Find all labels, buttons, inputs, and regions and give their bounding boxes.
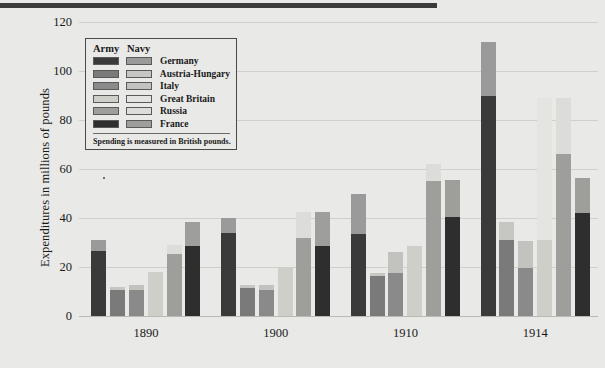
y-axis-tick-label: 60 — [60, 162, 73, 177]
y-axis-tick-label: 100 — [53, 64, 72, 79]
bar-1910-italy — [388, 252, 403, 316]
bar-1900-austria-hungary — [240, 285, 255, 316]
legend-swatch-navy-icon — [126, 57, 152, 65]
y-axis-title: Expenditures in millions of pounds — [38, 58, 53, 298]
bar-segment-navy — [556, 98, 571, 154]
bar-1910-france — [445, 180, 460, 316]
bar-segment-army — [575, 213, 590, 316]
gridline — [79, 218, 598, 219]
bar-segment-army — [370, 276, 385, 316]
gridline — [79, 22, 598, 23]
legend: Army Navy GermanyAustria-HungaryItalyGre… — [85, 38, 237, 150]
bar-segment-army — [296, 238, 311, 316]
y-axis-tick-label: 0 — [66, 309, 72, 324]
x-axis-group-label: 1910 — [393, 326, 418, 341]
bar-1914-germany — [481, 42, 496, 316]
bar-segment-navy — [388, 252, 403, 273]
legend-item-germany: Germany — [93, 55, 230, 68]
bar-segment-navy — [518, 241, 533, 268]
legend-header-army: Army — [93, 43, 127, 54]
bar-1890-austria-hungary — [110, 287, 125, 316]
bar-segment-army — [221, 233, 236, 316]
bar-1900-italy — [259, 285, 274, 316]
legend-swatch-army-icon — [93, 95, 119, 103]
bar-1910-germany — [351, 194, 366, 317]
bar-segment-navy — [481, 42, 496, 96]
bar-segment-navy — [537, 98, 552, 240]
bar-segment-army — [110, 290, 125, 316]
bar-1914-france — [575, 178, 590, 316]
bar-segment-army — [388, 273, 403, 316]
bar-segment-army — [278, 267, 293, 316]
bar-segment-navy — [426, 164, 441, 181]
bar-segment-army — [240, 288, 255, 316]
bar-segment-army — [537, 240, 552, 316]
bar-segment-navy — [499, 222, 514, 240]
x-axis-group-label: 1890 — [133, 326, 158, 341]
y-axis-tick-label: 40 — [60, 211, 73, 226]
bar-1910-russia — [426, 164, 441, 316]
bar-segment-navy — [185, 222, 200, 247]
legend-swatch-army-icon — [93, 82, 119, 90]
legend-header: Army Navy — [93, 43, 230, 54]
legend-item-great-britain: Great Britain — [93, 93, 230, 106]
legend-swatch-navy-icon — [126, 82, 152, 90]
legend-header-navy: Navy — [127, 43, 167, 54]
bar-segment-army — [129, 290, 144, 316]
bar-1914-russia — [556, 98, 571, 316]
bar-segment-army — [148, 272, 163, 316]
y-axis-tick-label: 120 — [53, 15, 72, 30]
bar-segment-army — [315, 246, 330, 316]
legend-swatch-army-icon — [93, 70, 119, 78]
bar-1910-austria-hungary — [370, 273, 385, 316]
bar-segment-navy — [167, 245, 182, 254]
bar-segment-army — [481, 96, 496, 317]
legend-item-france: France — [93, 118, 230, 131]
bar-1900-great-britain — [278, 267, 293, 316]
bar-1890-russia — [167, 245, 182, 316]
bar-segment-army — [407, 246, 422, 316]
bar-segment-army — [351, 234, 366, 316]
bar-segment-navy — [575, 178, 590, 214]
x-axis-line — [79, 316, 598, 317]
legend-item-label: Great Britain — [160, 94, 215, 104]
bar-segment-navy — [91, 240, 106, 251]
legend-swatch-navy-icon — [126, 95, 152, 103]
legend-item-label: France — [160, 119, 189, 129]
legend-item-label: Italy — [160, 81, 179, 91]
bar-segment-navy — [296, 212, 311, 238]
legend-item-italy: Italy — [93, 80, 230, 93]
stray-mark — [103, 177, 105, 179]
bar-1910-great-britain — [407, 246, 422, 316]
legend-swatch-army-icon — [93, 57, 119, 65]
legend-item-russia: Russia — [93, 105, 230, 118]
bar-1914-italy — [518, 241, 533, 316]
legend-swatch-army-icon — [93, 107, 119, 115]
bar-segment-navy — [445, 180, 460, 217]
legend-swatch-navy-icon — [126, 70, 152, 78]
legend-item-label: Austria-Hungary — [160, 69, 230, 79]
bar-1914-austria-hungary — [499, 222, 514, 316]
bar-1890-great-britain — [148, 272, 163, 316]
bar-segment-army — [499, 240, 514, 316]
x-axis-group-label: 1900 — [263, 326, 288, 341]
legend-rows: GermanyAustria-HungaryItalyGreat Britain… — [93, 55, 230, 130]
bar-1914-great-britain — [537, 98, 552, 316]
legend-swatch-navy-icon — [126, 107, 152, 115]
bar-1890-france — [185, 222, 200, 316]
y-axis-tick-label: 80 — [60, 113, 73, 128]
bar-1890-italy — [129, 285, 144, 316]
bar-1900-france — [315, 212, 330, 316]
legend-item-label: Germany — [160, 56, 199, 66]
bar-1890-germany — [91, 240, 106, 316]
bar-segment-navy — [315, 212, 330, 246]
legend-item-label: Russia — [160, 106, 187, 116]
bar-segment-army — [518, 268, 533, 316]
bar-segment-navy — [351, 194, 366, 234]
gridline — [79, 169, 598, 170]
legend-swatch-navy-icon — [126, 120, 152, 128]
bar-segment-army — [185, 246, 200, 316]
x-axis-group-label: 1914 — [523, 326, 548, 341]
bar-segment-army — [426, 181, 441, 316]
bar-segment-army — [259, 290, 274, 316]
